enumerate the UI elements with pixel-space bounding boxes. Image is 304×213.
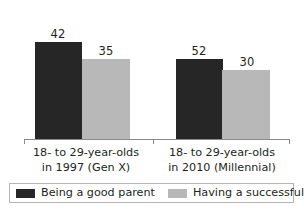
legend-item-having-a-successful-marriage: Having a successful marriage xyxy=(168,184,304,202)
x-axis-label-millennial: 18- to 29-year-olds in 2010 (Millennial) xyxy=(154,146,290,175)
data-label-millennial-having-a-successful-marriage: 30 xyxy=(217,56,277,68)
x-axis-tick-left xyxy=(24,139,25,144)
bar-group-millennial xyxy=(176,0,271,140)
legend-label-having-a-successful-marriage: Having a successful marriage xyxy=(193,187,304,199)
bar-gen-x-being-a-good-parent xyxy=(35,42,82,139)
x-axis-label-millennial-line-1: 18- to 29-year-olds xyxy=(154,146,290,161)
plot-area: 42 35 52 30 xyxy=(0,0,304,140)
legend-label-being-a-good-parent: Being a good parent xyxy=(41,187,155,199)
legend-swatch-having-a-successful-marriage xyxy=(168,189,187,198)
x-axis-label-millennial-line-2: in 2010 (Millennial) xyxy=(154,161,290,176)
bar-group-gen-x xyxy=(35,0,131,140)
data-label-gen-x-having-a-successful-marriage: 35 xyxy=(76,45,136,57)
data-label-gen-x-being-a-good-parent: 42 xyxy=(28,28,88,40)
chart-legend: Being a good parent Having a successful … xyxy=(9,183,294,203)
x-axis-label-gen-x: 18- to 29-year-olds in 1997 (Gen X) xyxy=(20,146,152,175)
x-axis-label-gen-x-line-2: in 1997 (Gen X) xyxy=(20,161,152,176)
bar-millennial-being-a-good-parent xyxy=(176,59,223,140)
bar-millennial-having-a-successful-marriage xyxy=(222,70,270,139)
x-axis-line xyxy=(24,139,290,140)
bar-chart: 42 35 52 30 18- to 29-year-olds in 1997 … xyxy=(0,0,304,213)
data-label-millennial-being-a-good-parent: 52 xyxy=(169,45,229,57)
bar-gen-x-having-a-successful-marriage xyxy=(82,59,130,140)
x-axis-tick-center xyxy=(153,139,154,144)
legend-item-being-a-good-parent: Being a good parent xyxy=(16,184,155,202)
x-axis-tick-right xyxy=(289,139,290,144)
legend-swatch-being-a-good-parent xyxy=(16,189,35,198)
x-axis-labels: 18- to 29-year-olds in 1997 (Gen X) 18- … xyxy=(0,146,304,178)
x-axis-label-gen-x-line-1: 18- to 29-year-olds xyxy=(20,146,152,161)
